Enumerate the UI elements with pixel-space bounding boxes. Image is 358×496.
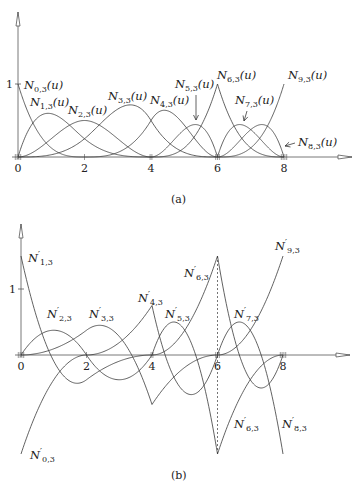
curve-label: N6,3(u) <box>216 68 256 84</box>
curve-label: N′7,3 <box>233 306 259 323</box>
curve-label: N′3,3 <box>88 306 114 323</box>
curve-label: N′0,3 <box>29 447 55 464</box>
curve-label: N′5,3 <box>164 306 190 323</box>
curve-label: N′1,3 <box>27 250 53 267</box>
panel-b-curve-labels: N′1,3N′2,3N′3,3N′4,3N′5,3N′6,3N′7,3N′9,3… <box>27 238 307 464</box>
x-tick-label: 2 <box>83 360 90 373</box>
curve-label: N4,3(u) <box>149 93 189 109</box>
curve-label: N9,3(u) <box>287 68 327 84</box>
curve-label: N′6,3 <box>183 265 209 282</box>
x-axis-arrow-icon <box>338 155 352 159</box>
curve-dN53 <box>152 322 218 454</box>
curve-dN83 <box>218 322 284 454</box>
curve-label: N5,3(u) <box>174 77 214 93</box>
curve-label: N′4,3 <box>137 290 163 307</box>
x-tick-label: 8 <box>281 162 288 175</box>
curve-label: N2,3(u) <box>67 103 107 119</box>
curve-label: N1,3(u) <box>29 95 69 111</box>
caption-a: (a) <box>171 193 186 206</box>
curve-dN93 <box>218 256 284 355</box>
x-tick-label: 0 <box>15 162 22 175</box>
curve-label: N3,3(u) <box>107 89 147 105</box>
x-axis-arrow-icon <box>336 353 350 357</box>
x-tick-label: 2 <box>81 162 88 175</box>
caption-b: (b) <box>171 469 187 482</box>
panel-a-basis-functions: 102468 N0,3(u)N1,3(u)N2,3(u)N3,3(u)N4,3(… <box>6 12 352 206</box>
curve-N13 <box>18 113 151 157</box>
y-axis-arrow-icon <box>19 224 23 238</box>
panel-a-curve-labels: N0,3(u)N1,3(u)N2,3(u)N3,3(u)N4,3(u)N5,3(… <box>23 68 337 151</box>
panel-b-derivatives: 102468 N′1,3N′2,3N′3,3N′4,3N′5,3N′6,3N′7… <box>9 224 350 482</box>
x-tick-label: 6 <box>214 162 221 175</box>
curve-label: N8,3(u) <box>297 135 337 151</box>
curve-label: N′8,3 <box>281 416 307 433</box>
curve-label: N′9,3 <box>274 238 300 255</box>
y-axis-arrow-icon <box>16 12 20 26</box>
curve-N83 <box>218 125 285 157</box>
curve-dN03 <box>21 355 87 454</box>
curve-label: N0,3(u) <box>23 78 63 94</box>
curve-label: N′2,3 <box>46 306 72 323</box>
y-tick-label-1: 1 <box>9 283 16 296</box>
curve-dN33 <box>21 325 218 404</box>
curve-label: N7,3(u) <box>234 93 274 109</box>
x-tick-label: 4 <box>149 360 156 373</box>
x-tick-label: 0 <box>18 360 25 373</box>
figure: 102468 N0,3(u)N1,3(u)N2,3(u)N3,3(u)N4,3(… <box>0 0 358 496</box>
curve-N33 <box>18 105 218 157</box>
y-tick-label-1: 1 <box>6 78 13 91</box>
x-tick-label: 4 <box>148 162 155 175</box>
curve-label: N′6,3 <box>233 416 259 433</box>
